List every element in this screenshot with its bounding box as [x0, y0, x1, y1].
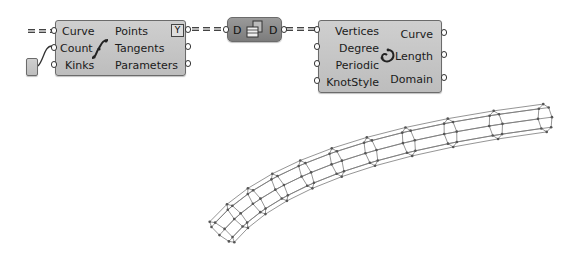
wireframe-pipe [0, 0, 571, 276]
grasshopper-canvas[interactable]: Curve Count Kinks Points Tangents Parame… [0, 0, 571, 276]
